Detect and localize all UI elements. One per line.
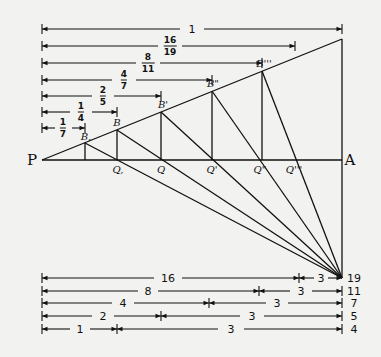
dim-label-8-11: 811 [142,53,155,74]
bottom-left-4: 4 [120,298,127,309]
point-B-double-prime: B" [207,78,219,89]
bottom-right-3-row4: 3 [228,324,235,335]
bottom-total-5: 5 [351,311,358,322]
point-Q1: Q, [113,164,124,175]
point-Q-triple-prime: Q''' [286,164,302,175]
diagram-lines [0,0,381,357]
bottom-total-11: 11 [347,286,361,297]
bottom-left-2: 2 [100,311,107,322]
dim-label-4-7: 47 [121,70,127,91]
point-Q: Q [157,164,165,175]
point-P: P [27,151,37,169]
point-Q-double-prime: Q" [254,164,267,175]
bottom-right-3-row5: 3 [249,311,256,322]
point-B: B [113,117,120,128]
bottom-total-4: 4 [351,324,358,335]
geometric-construction-diagram: P A B, B B' B" B''' Q, Q Q' Q" Q''' 1 16… [0,0,381,357]
bottom-left-8: 8 [145,286,152,297]
point-Q-prime: Q' [207,164,218,175]
dim-label-16-19: 1619 [164,36,177,57]
dim-label-1-7: 17 [60,118,66,139]
bottom-right-3-row19: 3 [318,273,325,284]
hypotenuse [42,39,342,160]
point-B-prime: B' [158,99,168,110]
point-B1: B, [81,131,92,142]
point-B-triple-prime: B''' [256,58,272,69]
dim-label-2-5: 25 [100,86,106,107]
bottom-right-3-row7: 3 [274,298,281,309]
dim-label-1: 1 [189,24,196,35]
dim-label-1-4: 14 [78,102,84,123]
bottom-left-1: 1 [77,324,84,335]
bottom-right-3-row11: 3 [298,286,305,297]
bottom-left-16: 16 [161,273,175,284]
point-A: A [345,151,356,169]
bottom-total-7: 7 [351,298,358,309]
bottom-total-19: 19 [347,273,361,284]
